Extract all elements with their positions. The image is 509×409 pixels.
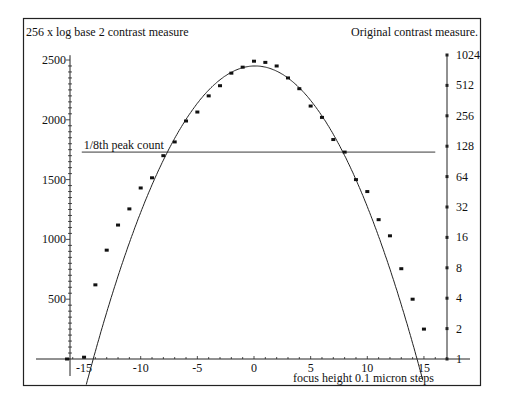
axes — [36, 55, 470, 376]
y2-tick-label: 2 — [456, 322, 462, 336]
y2-tick-label: 256 — [456, 109, 474, 123]
x-tick-label: 5 — [308, 361, 314, 375]
data-point — [331, 138, 335, 141]
y2-tick-marker — [446, 84, 449, 87]
y2-tick-marker — [446, 327, 449, 330]
y2-tick-marker — [446, 266, 449, 269]
parabolic-fit-curve — [86, 66, 423, 385]
data-point — [139, 186, 143, 189]
y2-tick-marker — [446, 54, 449, 57]
y2-tick-marker — [446, 175, 449, 178]
y2-tick-marker — [446, 206, 449, 209]
y-tick-label: 2000 — [42, 113, 66, 127]
data-point — [275, 64, 279, 67]
data-point — [252, 60, 256, 63]
data-point — [263, 61, 267, 64]
y2-tick-label: 64 — [456, 170, 468, 184]
data-point — [184, 119, 188, 122]
y2-tick-marker — [446, 114, 449, 117]
x-tick-label: -10 — [133, 361, 149, 375]
y2-tick-label: 32 — [456, 200, 468, 214]
data-point — [320, 116, 324, 119]
data-point — [411, 298, 415, 301]
data-point — [354, 178, 358, 181]
data-point — [127, 207, 131, 210]
y2-tick-label: 128 — [456, 139, 474, 153]
ticks: 5001000150020002500-15-10-50510151248163… — [42, 48, 480, 375]
data-point — [309, 105, 313, 108]
data-point — [218, 84, 222, 87]
data-point — [173, 140, 177, 143]
data-point — [93, 283, 97, 286]
y-tick-label: 1000 — [42, 232, 66, 246]
peak-fraction-label: 1/8th peak count — [84, 138, 165, 152]
y2-tick-marker — [446, 297, 449, 300]
y2-tick-label: 4 — [456, 291, 462, 305]
data-point — [388, 234, 392, 237]
data-point — [82, 356, 86, 359]
data-point — [297, 87, 301, 90]
data-point — [65, 358, 69, 361]
data-point — [105, 249, 109, 252]
y2-tick-marker — [446, 145, 449, 148]
data-point — [399, 267, 403, 270]
fit-curve-path — [86, 66, 423, 385]
y2-axis-title: Original contrast measure. — [351, 25, 478, 39]
data-point — [286, 76, 290, 79]
data-point — [195, 111, 199, 114]
data-point — [377, 218, 381, 221]
x-tick-label: -5 — [192, 361, 202, 375]
y2-tick-marker — [446, 358, 449, 361]
focus-contrast-chart: 256 x log base 2 contrast measure Origin… — [0, 0, 509, 409]
data-point — [241, 66, 245, 69]
annotations: 1/8th peak count — [82, 138, 435, 152]
data-point — [229, 72, 233, 75]
data-point — [343, 151, 347, 154]
data-point — [365, 190, 369, 193]
y-tick-label: 1500 — [42, 173, 66, 187]
chart-frame — [24, 19, 481, 386]
y-tick-label: 2500 — [42, 53, 66, 67]
y2-tick-label: 1 — [456, 352, 462, 366]
y-axis-title: 256 x log base 2 contrast measure — [26, 25, 189, 39]
y2-tick-label: 8 — [456, 261, 462, 275]
data-point — [161, 154, 165, 157]
data-point — [116, 224, 120, 227]
y2-tick-label: 512 — [456, 78, 474, 92]
data-point — [207, 94, 211, 97]
data-point — [422, 328, 426, 331]
x-tick-label: 10 — [361, 361, 373, 375]
y2-tick-label: 16 — [456, 230, 468, 244]
y-tick-label: 500 — [48, 292, 66, 306]
data-points — [65, 60, 426, 361]
data-point — [150, 176, 154, 179]
x-tick-label: 0 — [251, 361, 257, 375]
y2-tick-marker — [446, 236, 449, 239]
y2-tick-label: 1024 — [456, 48, 480, 62]
